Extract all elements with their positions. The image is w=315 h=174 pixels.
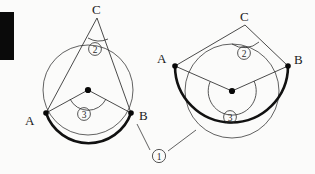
- right-label-c: C: [240, 9, 249, 24]
- callout-label: 1: [157, 152, 162, 162]
- left-label-c: C: [92, 2, 101, 17]
- right-point-a-dot: [172, 63, 178, 69]
- callout-group: 1: [137, 124, 196, 163]
- right-radius-ob: [232, 66, 288, 91]
- callout-leader-left: [137, 124, 150, 150]
- left-point-a-dot: [43, 110, 49, 116]
- right-chord-cb: [245, 25, 288, 66]
- right-label-a: A: [157, 51, 167, 66]
- left-bold-arc-ab: [46, 113, 131, 143]
- left-label-b: B: [139, 108, 148, 123]
- left-angle3-label: 3: [82, 110, 87, 120]
- left-angle2-label: 2: [93, 45, 98, 55]
- geometry-canvas: A B C 2 3: [0, 0, 315, 174]
- left-circle-group: A B C 2 3: [25, 2, 148, 143]
- right-angle3-label: 3: [228, 113, 233, 123]
- scan-artifact-block: [0, 12, 14, 60]
- right-angle-arc-at-o-reflex: [208, 81, 256, 115]
- right-point-b-dot: [285, 63, 291, 69]
- right-circle-group: A B C 2 3: [157, 9, 303, 138]
- right-center-dot: [229, 88, 235, 94]
- callout-leader-right: [168, 130, 196, 151]
- right-radius-oa: [175, 66, 232, 91]
- right-angle2-label: 2: [242, 49, 247, 59]
- left-center-dot: [85, 87, 91, 93]
- left-label-a: A: [25, 113, 35, 128]
- left-point-b-dot: [128, 110, 134, 116]
- right-label-b: B: [294, 52, 303, 67]
- geometry-figure: A B C 2 3: [0, 0, 315, 174]
